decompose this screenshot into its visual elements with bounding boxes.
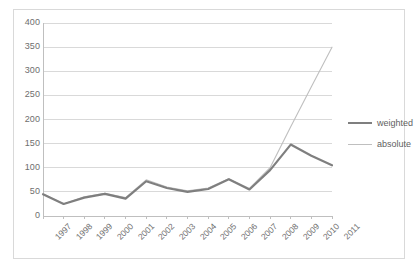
legend-item-absolute[interactable]: absolute <box>348 139 413 149</box>
plot-area: 400350300250200150100500 199719981999200… <box>14 10 404 258</box>
y-tick-label: 250 <box>14 90 40 99</box>
gridlines <box>43 23 332 216</box>
series-lines <box>43 47 332 204</box>
chart-legend: weightedabsolute <box>348 118 413 160</box>
series-line-weighted <box>43 145 332 204</box>
series-line-absolute <box>43 47 332 204</box>
legend-item-weighted[interactable]: weighted <box>348 118 413 128</box>
y-tick-label: 200 <box>14 115 40 124</box>
legend-label: absolute <box>377 139 411 149</box>
y-tick-label: 50 <box>14 187 40 196</box>
y-tick-label: 300 <box>14 66 40 75</box>
y-tick-label: 150 <box>14 139 40 148</box>
chart-container: 400350300250200150100500 199719981999200… <box>13 9 405 259</box>
legend-label: weighted <box>377 118 413 128</box>
y-tick-label: 400 <box>14 18 40 27</box>
legend-swatch-absolute-icon <box>348 144 372 145</box>
y-tick-label: 350 <box>14 42 40 51</box>
y-tick-label: 100 <box>14 163 40 172</box>
y-tick-label: 0 <box>14 211 40 220</box>
legend-swatch-weighted-icon <box>348 122 372 124</box>
